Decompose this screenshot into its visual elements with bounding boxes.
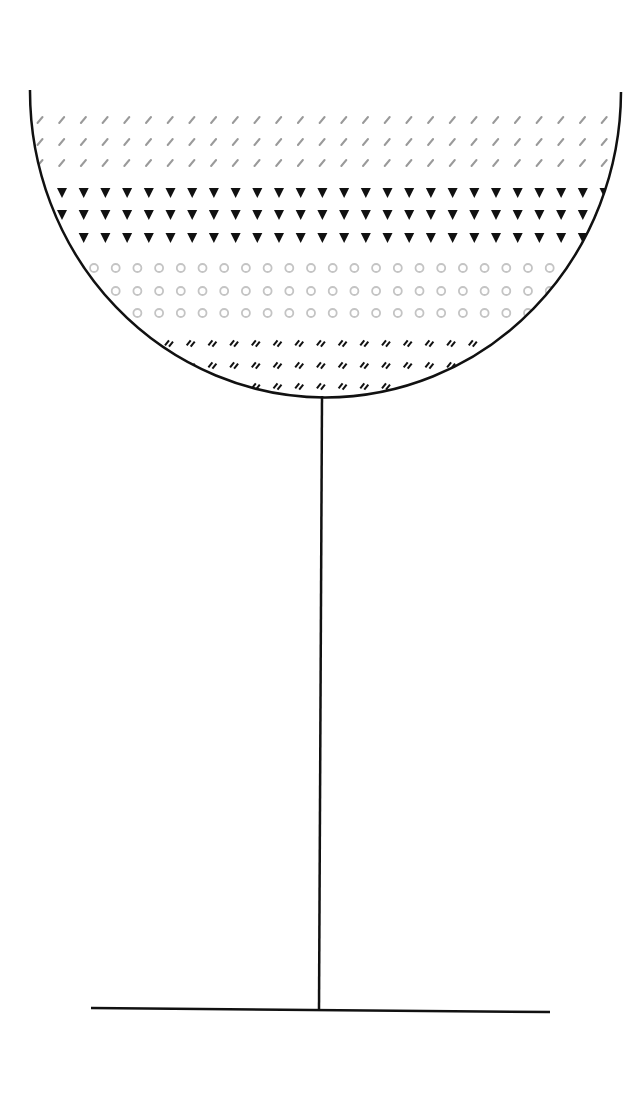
slash-mark — [341, 139, 346, 145]
triangle-mark — [361, 188, 371, 198]
circle-mark — [502, 264, 510, 272]
slash-mark — [580, 160, 585, 166]
circle-mark — [307, 309, 315, 317]
slash-mark — [38, 117, 43, 123]
slash-mark — [59, 117, 64, 123]
triangle-mark — [448, 210, 458, 220]
slash-mark — [81, 139, 86, 145]
triangle-mark — [187, 233, 197, 243]
double-dash-mark — [339, 340, 347, 346]
circle-mark — [372, 264, 380, 272]
slash-mark — [450, 139, 455, 145]
circle-mark — [481, 309, 489, 317]
triangle-mark — [491, 188, 501, 198]
circle-mark — [524, 287, 532, 295]
double-dash-mark — [230, 340, 238, 346]
slash-mark — [428, 117, 433, 123]
triangle-mark — [252, 233, 262, 243]
slash-mark — [233, 160, 238, 166]
triangle-mark — [57, 210, 67, 220]
slash-mark — [298, 139, 303, 145]
circle-mark — [416, 264, 424, 272]
triangle-mark — [100, 210, 110, 220]
slash-mark — [59, 139, 64, 145]
slash-mark — [103, 117, 108, 123]
slash-mark — [472, 117, 477, 123]
slash-mark — [428, 139, 433, 145]
double-dash-mark — [295, 340, 303, 346]
double-dash-mark — [317, 340, 325, 346]
slash-mark — [38, 139, 43, 145]
slash-mark — [189, 139, 194, 145]
slash-mark — [276, 117, 281, 123]
circle-mark — [220, 287, 228, 295]
triangle-mark — [209, 210, 219, 220]
slash-mark — [602, 160, 607, 166]
triangle-mark — [383, 210, 393, 220]
triangle-mark — [339, 210, 349, 220]
slash-mark — [124, 160, 129, 166]
circle-mark — [416, 309, 424, 317]
circle-mark — [264, 264, 272, 272]
triangle-mark — [122, 210, 132, 220]
triangle-mark — [426, 188, 436, 198]
triangle-mark — [79, 233, 89, 243]
triangle-mark — [534, 188, 544, 198]
double-dash-mark — [208, 340, 216, 346]
slash-mark — [363, 117, 368, 123]
slash-mark — [81, 117, 86, 123]
triangle-mark — [252, 210, 262, 220]
circle-mark — [199, 309, 207, 317]
triangle-mark — [144, 233, 154, 243]
circle-mark — [437, 287, 445, 295]
circle-mark — [155, 264, 163, 272]
triangle-mark — [426, 210, 436, 220]
circle-mark — [350, 287, 358, 295]
circle-mark — [90, 264, 98, 272]
triangle-mark — [252, 188, 262, 198]
triangle-mark — [274, 210, 284, 220]
triangle-mark — [513, 210, 523, 220]
slash-mark — [320, 160, 325, 166]
triangle-mark — [296, 210, 306, 220]
slash-mark — [537, 117, 542, 123]
slash-mark — [515, 139, 520, 145]
triangle-mark — [296, 188, 306, 198]
slash-mark — [558, 139, 563, 145]
triangle-mark — [187, 188, 197, 198]
slash-mark — [450, 117, 455, 123]
triangle-mark — [166, 210, 176, 220]
circle-mark — [199, 287, 207, 295]
triangle-mark — [339, 188, 349, 198]
triangle-mark — [383, 188, 393, 198]
circle-mark — [372, 287, 380, 295]
circle-mark — [329, 309, 337, 317]
slash-mark — [363, 139, 368, 145]
slash-mark — [124, 117, 129, 123]
circle-mark — [242, 264, 250, 272]
slash-mark — [515, 117, 520, 123]
circle-mark — [481, 264, 489, 272]
circle-mark — [416, 287, 424, 295]
slash-mark — [276, 139, 281, 145]
double-dash-mark — [317, 362, 325, 368]
slash-mark — [298, 160, 303, 166]
slash-mark — [255, 160, 260, 166]
triangle-mark — [556, 233, 566, 243]
slash-mark — [189, 160, 194, 166]
circle-mark — [437, 309, 445, 317]
double-dash-mark — [469, 340, 477, 346]
slash-mark — [450, 160, 455, 166]
slash-mark — [341, 160, 346, 166]
slash-mark — [211, 139, 216, 145]
triangle-mark — [339, 233, 349, 243]
double-dash-mark — [425, 340, 433, 346]
triangle-mark — [317, 188, 327, 198]
slash-mark — [493, 117, 498, 123]
slash-mark — [255, 139, 260, 145]
slash-mark — [385, 139, 390, 145]
slash-mark — [146, 160, 151, 166]
slash-mark — [515, 160, 520, 166]
double-dash-mark — [404, 362, 412, 368]
slash-mark — [493, 160, 498, 166]
